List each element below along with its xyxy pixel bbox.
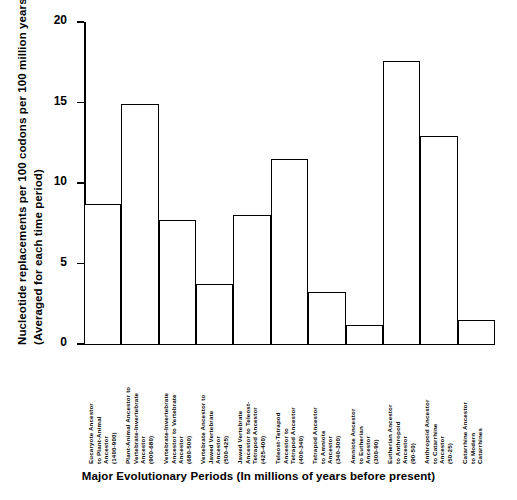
x-category-label-text: Tetrapod Ancestor to Amniote Ancestor (3… [311,348,341,466]
y-tick-20: 20 [77,21,84,22]
x-category-label-11: Catarrhine Ancestor to Modern Catarrhine… [461,348,495,466]
x-category-label-text: Amniote Ancestor to Eutherian Ancestor (… [349,348,379,466]
y-tick-10: 10 [77,182,84,183]
y-tick-0: 0 [77,343,84,344]
y-tick-label-15: 15 [54,94,67,108]
y-axis-title-line1: Nucleotide replacements per 100 codons p… [14,0,30,345]
x-category-label-2: Plant-Animal Ancestor to Vertebrate-Inve… [124,348,158,466]
x-axis-title: Major Evolutionary Periods (In millions … [0,470,517,482]
y-tick-15: 15 [77,102,84,103]
x-category-label-4: Vertebrate Ancestor to Jawed Vertebrate … [199,348,233,466]
bar-11[interactable] [458,320,495,344]
x-category-label-text: Eutherian Ancestor to Anthropoid Ancesto… [386,348,416,466]
x-category-label-9: Eutherian Ancestor to Anthropoid Ancesto… [386,348,420,466]
bar-1[interactable] [84,204,121,344]
x-category-label-text: Vertebrate-Invertebrate Ancestor to Vert… [162,348,192,466]
bar-8[interactable] [346,325,383,344]
x-category-label-8: Amniote Ancestor to Eutherian Ancestor (… [349,348,383,466]
x-category-label-text: Jawed Vertebrate Ancestor to Teleost- Te… [236,348,266,466]
plot-area: 05101520 [84,22,495,345]
bar-series [84,22,495,344]
x-axis-category-labels: Eucaryote Ancestor to Plant-Animal Ances… [84,348,495,468]
x-category-label-5: Jawed Vertebrate Ancestor to Teleost- Te… [236,348,270,466]
x-category-label-6: Teleost-Tetrapod Ancestor to Tetrapod An… [274,348,308,466]
y-tick-label-0: 0 [60,335,67,349]
x-category-label-text: Teleost-Tetrapod Ancestor to Tetrapod An… [274,348,304,466]
x-category-label-text: Plant-Animal Ancestor to Vertebrate-Inve… [124,348,154,466]
x-category-label-10: Anthropoid Ancestor to Catarrhine Ancest… [423,348,457,466]
bar-9[interactable] [383,61,420,344]
x-category-label-3: Vertebrate-Invertebrate Ancestor to Vert… [162,348,196,466]
x-category-label-1: Eucaryote Ancestor to Plant-Animal Ances… [87,348,121,466]
x-category-label-text: Eucaryote Ancestor to Plant-Animal Ances… [87,348,117,466]
x-category-label-text: Anthropoid Ancestor to Catarrhine Ancest… [423,348,453,466]
y-tick-label-5: 5 [60,255,67,269]
bar-7[interactable] [308,292,345,344]
y-tick-label-20: 20 [54,13,67,27]
x-category-label-text: Vertebrate Ancestor to Jawed Vertebrate … [199,348,229,466]
bar-3[interactable] [159,220,196,344]
y-axis-title: Nucleotide replacements per 100 codons p… [0,0,52,350]
bar-10[interactable] [420,136,457,344]
y-axis-title-line2: (Averaged for each time period) [30,169,46,345]
bar-6[interactable] [271,159,308,344]
x-category-label-7: Tetrapod Ancestor to Amniote Ancestor (3… [311,348,345,466]
bar-5[interactable] [233,215,270,344]
y-tick-5: 5 [77,263,84,264]
bar-2[interactable] [121,104,158,344]
x-category-label-text: Catarrhine Ancestor to Modern Catarrhine… [461,348,484,466]
bar-4[interactable] [196,284,233,344]
y-tick-label-10: 10 [54,174,67,188]
